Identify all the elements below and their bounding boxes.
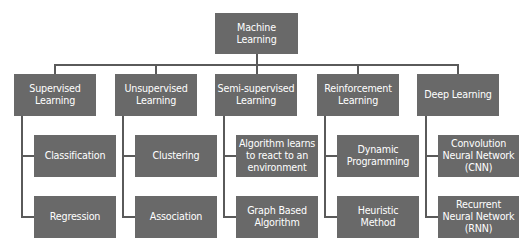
leaf-node-clustering: Clustering <box>135 135 217 177</box>
category-label: Unsupervised Learning <box>117 83 195 107</box>
category-node-supervised: Supervised Learning <box>14 74 96 116</box>
leaf-node-dynamic-programming: Dynamic Programming <box>337 135 419 177</box>
leaf-label: Recurrent Neural Network (RNN) <box>440 199 517 235</box>
branch-connector <box>425 155 438 157</box>
leaf-node-cnn: Convolution Neural Network (CNN) <box>438 135 519 177</box>
leaf-label: Heuristic Method <box>339 205 417 229</box>
branch-connector <box>324 216 337 218</box>
root-stem-connector <box>256 54 258 64</box>
category-label: Deep Learning <box>424 89 491 101</box>
branch-connector <box>425 116 427 217</box>
category-node-unsupervised: Unsupervised Learning <box>115 74 197 116</box>
leaf-node-rnn: Recurrent Neural Network (RNN) <box>438 196 519 238</box>
branch-connector <box>21 216 34 218</box>
category-label: Reinforcement Learning <box>319 83 397 107</box>
leaf-label: Dynamic Programming <box>339 144 417 168</box>
branch-connector <box>425 216 438 218</box>
root-node-machine-learning: Machine Learning <box>215 13 298 54</box>
leaf-label: Association <box>150 211 202 223</box>
leaf-node-algorithm-learns: Algorithm learns to react to an environm… <box>236 135 318 177</box>
category-node-deep-learning: Deep Learning <box>417 74 499 116</box>
drop-connector-semi-supervised <box>256 64 258 74</box>
category-node-reinforcement: Reinforcement Learning <box>317 74 399 116</box>
root-node-label: Machine Learning <box>217 22 296 46</box>
leaf-node-association: Association <box>135 196 217 238</box>
leaf-label: Clustering <box>153 150 200 162</box>
branch-connector <box>324 155 337 157</box>
leaf-node-regression: Regression <box>34 196 116 238</box>
branch-connector <box>324 116 326 217</box>
category-label: Semi-supervised Learning <box>217 83 295 107</box>
branch-connector <box>223 216 236 218</box>
branch-connector <box>122 155 135 157</box>
drop-connector-unsupervised <box>155 64 157 74</box>
leaf-node-heuristic-method: Heuristic Method <box>337 196 419 238</box>
branch-connector <box>223 116 225 217</box>
leaf-node-classification: Classification <box>34 135 116 177</box>
leaf-label: Algorithm learns to react to an environm… <box>238 138 316 174</box>
drop-connector-deep-learning <box>457 64 459 74</box>
branch-connector <box>21 116 23 217</box>
leaf-label: Regression <box>50 211 100 223</box>
branch-connector <box>21 155 34 157</box>
drop-connector-reinforcement <box>357 64 359 74</box>
leaf-label: Classification <box>45 150 106 162</box>
leaf-node-graph-based: Graph Based Algorithm <box>236 196 318 238</box>
branch-connector <box>122 216 135 218</box>
drop-connector-supervised <box>54 64 56 74</box>
leaf-label: Convolution Neural Network (CNN) <box>440 138 517 174</box>
category-label: Supervised Learning <box>16 83 94 107</box>
branch-connector <box>122 116 124 217</box>
category-node-semi-supervised: Semi-supervised Learning <box>215 74 297 116</box>
branch-connector <box>223 155 236 157</box>
leaf-label: Graph Based Algorithm <box>238 205 316 229</box>
